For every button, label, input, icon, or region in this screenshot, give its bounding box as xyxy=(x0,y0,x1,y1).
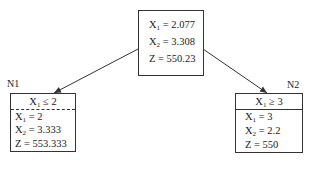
root-line-x2: X2 = 3.308 xyxy=(149,36,195,48)
n1-constraint: X1 ≤ 2 xyxy=(11,94,75,110)
root-node: X1 = 2.077 X2 = 3.308 Z = 550.23 xyxy=(138,10,204,76)
root-line-z: Z = 550.23 xyxy=(149,53,195,65)
n1-node: X1 ≤ 2 X1 = 2 X2 = 3.333 Z = 553.333 xyxy=(10,93,76,152)
arrow-to-n2 xyxy=(203,49,267,93)
n1-line-x2: X2 = 3.333 xyxy=(15,124,61,136)
n2-label: N2 xyxy=(287,79,299,90)
n2-line-x1: X1 = 3 xyxy=(245,111,273,123)
n2-constraint: X1 ≥ 3 xyxy=(236,94,302,110)
n2-node: X1 ≥ 3 X1 = 3 X2 = 2.2 Z = 550 xyxy=(235,93,303,153)
arrow-to-n1 xyxy=(54,49,138,93)
n1-line-z: Z = 553.333 xyxy=(15,138,67,150)
n1-line-x1: X1 = 2 xyxy=(15,111,43,123)
root-line-x1: X1 = 2.077 xyxy=(149,19,195,31)
n1-label: N1 xyxy=(7,78,19,89)
n2-line-z: Z = 550 xyxy=(245,139,278,151)
n2-line-x2: X2 = 2.2 xyxy=(245,125,280,137)
